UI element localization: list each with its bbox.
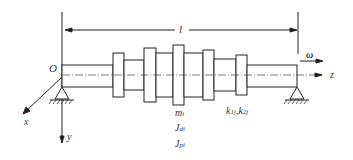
rotor-diagram <box>0 0 353 160</box>
diametral-inertia-label: Jdi <box>175 123 185 133</box>
x-axis <box>25 77 62 112</box>
left-support-icon <box>55 87 69 99</box>
y-axis-label: y <box>67 132 71 142</box>
arrow-left-icon <box>65 28 72 32</box>
shaft-segment-right <box>247 65 297 87</box>
omega-label: ω <box>306 50 313 60</box>
y-axis-arrow-icon <box>60 136 64 143</box>
stiffness-label: k1j,k2j <box>226 106 248 116</box>
z-axis-label: z <box>330 70 334 80</box>
origin-label: O <box>49 63 57 74</box>
z-axis-arrow-icon <box>315 73 322 77</box>
shaft-segment-left <box>62 65 113 87</box>
arrow-right-icon <box>290 28 297 32</box>
length-label: l <box>179 24 182 35</box>
polar-inertia-label: Jpi <box>175 139 185 149</box>
left-hatching <box>49 100 72 104</box>
omega-arrowhead-icon <box>316 59 323 63</box>
mass-label: mi <box>175 108 184 118</box>
right-support-icon <box>290 87 304 99</box>
x-axis-label: x <box>24 117 28 127</box>
right-hatching <box>284 100 307 104</box>
